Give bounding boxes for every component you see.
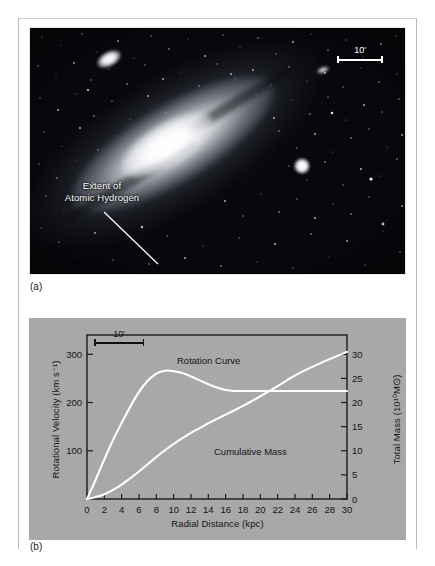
rotation-curve-label: Rotation Curve (177, 355, 240, 366)
x-axis-title: Radial Distance (kpc) (29, 518, 406, 529)
svg-text:20: 20 (255, 504, 266, 515)
companion-galaxy-right (294, 158, 310, 174)
rotation-curve-chart: 024681012141618202224262830 100200300 05… (29, 318, 406, 540)
svg-text:10: 10 (352, 445, 363, 456)
svg-text:0: 0 (352, 494, 357, 505)
y-axis-left-ticks: 100200300 (66, 349, 93, 456)
galaxy-photograph: Extent of Atomic Hydrogen 10' (29, 27, 406, 275)
svg-text:100: 100 (66, 445, 82, 456)
svg-text:24: 24 (290, 504, 301, 515)
svg-text:16: 16 (220, 504, 231, 515)
svg-text:10: 10 (168, 504, 179, 515)
starfield-background (30, 28, 405, 274)
svg-text:5: 5 (352, 469, 357, 480)
photo-scale-bar-graphic (331, 56, 389, 63)
svg-text:18: 18 (238, 504, 249, 515)
cumulative-mass-label: Cumulative Mass (214, 446, 287, 457)
x-axis-ticks: 024681012141618202224262830 (84, 494, 352, 515)
svg-text:25: 25 (352, 373, 363, 384)
svg-text:28: 28 (324, 504, 335, 515)
hydrogen-extent-line-2: Atomic Hydrogen (42, 192, 162, 204)
svg-text:30: 30 (352, 349, 363, 360)
hydrogen-extent-line-1: Extent of (42, 180, 162, 192)
photo-scale-bar-label: 10' (331, 45, 389, 55)
y-axis-right-ticks: 051015202530 (341, 349, 363, 505)
chart-scale-bar-label: 10' (89, 329, 149, 339)
svg-text:30: 30 (342, 504, 353, 515)
svg-text:6: 6 (136, 504, 141, 515)
svg-text:20: 20 (352, 397, 363, 408)
svg-text:15: 15 (352, 421, 363, 432)
svg-text:12: 12 (186, 504, 197, 515)
chart-scale-bar-graphic (89, 339, 149, 346)
annotation-leader-line (102, 210, 162, 266)
figure-page: Extent of Atomic Hydrogen 10' (a) 024681… (0, 0, 435, 566)
chart-plot-area: 024681012141618202224262830 100200300 05… (29, 318, 406, 540)
cumulative-mass-line (87, 352, 347, 499)
svg-text:22: 22 (272, 504, 283, 515)
svg-text:4: 4 (119, 504, 124, 515)
chart-scale-bar: 10' (89, 329, 149, 346)
svg-text:26: 26 (307, 504, 318, 515)
svg-text:0: 0 (84, 504, 89, 515)
y-axis-left-title: Rotational Velocity (km s⁻¹) (50, 345, 61, 495)
hydrogen-extent-annotation: Extent of Atomic Hydrogen (42, 180, 162, 204)
svg-text:14: 14 (203, 504, 214, 515)
panel-a-label: (a) (30, 281, 42, 292)
rotation-curve-line (87, 371, 347, 499)
svg-text:200: 200 (66, 397, 82, 408)
svg-text:2: 2 (102, 504, 107, 515)
y-axis-right-title: Total Mass (10¹⁰M⊙) (391, 345, 402, 495)
panel-b-label: (b) (30, 541, 42, 552)
photo-scale-bar: 10' (331, 45, 389, 63)
svg-text:8: 8 (154, 504, 159, 515)
svg-text:300: 300 (66, 349, 82, 360)
